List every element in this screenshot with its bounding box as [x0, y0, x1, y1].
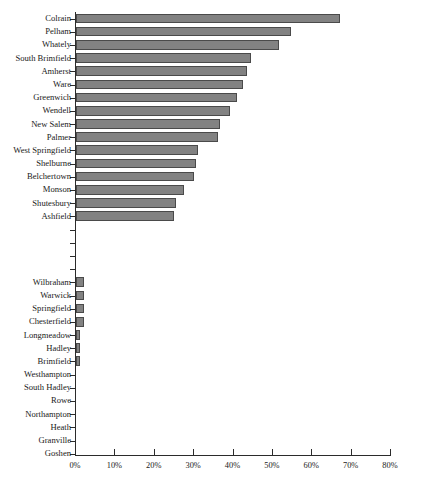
category-label: Heath — [50, 421, 71, 434]
x-axis-tick — [351, 449, 352, 455]
bar — [76, 317, 84, 327]
chart-row: Wendell — [0, 104, 421, 117]
bar — [76, 185, 184, 195]
chart-row: Northampton — [0, 408, 421, 421]
x-axis-tick — [154, 449, 155, 455]
chart-row: Palmer — [0, 131, 421, 144]
category-label: Ware — [53, 78, 71, 91]
bar — [76, 343, 80, 353]
chart-row: South Hadley — [0, 381, 421, 394]
chart-row: West Springfield — [0, 144, 421, 157]
chart-row: New Salem — [0, 118, 421, 131]
bar — [76, 291, 84, 301]
chart-row: Brimfield — [0, 355, 421, 368]
chart-row: Goshen — [0, 447, 421, 460]
bar — [76, 330, 80, 340]
bar — [76, 14, 340, 24]
chart-row: Belchertown — [0, 170, 421, 183]
category-label: Shelburne — [36, 157, 71, 170]
bar — [76, 277, 84, 287]
chart-row: Springfield — [0, 302, 421, 315]
category-label: Chesterfield — [29, 315, 71, 328]
bar — [76, 304, 84, 314]
category-label: Belchertown — [27, 170, 71, 183]
category-label: Colrain — [45, 12, 71, 25]
bar — [76, 198, 176, 208]
bar — [76, 132, 218, 142]
category-label: Monson — [43, 183, 71, 196]
chart-row: Westhampton — [0, 368, 421, 381]
chart-row: Chesterfield — [0, 315, 421, 328]
chart-row — [0, 263, 421, 276]
chart-row: Shelburne — [0, 157, 421, 170]
category-label: Palmer — [47, 131, 71, 144]
bar — [76, 93, 237, 103]
bar — [76, 119, 220, 129]
bar — [76, 172, 194, 182]
category-label: Goshen — [45, 447, 71, 460]
category-label: Shutesbury — [32, 197, 71, 210]
chart-row: Greenwich — [0, 91, 421, 104]
bar — [76, 53, 251, 63]
bar — [76, 40, 279, 50]
x-axis-tick — [233, 449, 234, 455]
category-label: Rowe — [51, 394, 71, 407]
category-label: South Brimfield — [15, 52, 71, 65]
category-label: Westhampton — [24, 368, 71, 381]
category-tick — [70, 230, 75, 231]
category-label: Pelham — [45, 25, 71, 38]
chart-row — [0, 249, 421, 262]
x-axis-tick — [311, 449, 312, 455]
bar — [76, 159, 196, 169]
chart-row: Granville — [0, 434, 421, 447]
chart-row: Warwick — [0, 289, 421, 302]
category-tick — [70, 269, 75, 270]
chart-row: South Brimfield — [0, 52, 421, 65]
bar-chart: ColrainPelhamWhatelySouth BrimfieldAmher… — [0, 0, 421, 497]
bar — [76, 211, 174, 221]
chart-row: Whately — [0, 38, 421, 51]
bar — [76, 80, 243, 90]
bar — [76, 145, 198, 155]
chart-row: Monson — [0, 183, 421, 196]
category-label: Greenwich — [33, 91, 71, 104]
category-label: Northampton — [25, 408, 71, 421]
bar — [76, 66, 247, 76]
chart-row — [0, 223, 421, 236]
category-rows: ColrainPelhamWhatelySouth BrimfieldAmher… — [0, 12, 421, 460]
chart-row: Amherst — [0, 65, 421, 78]
x-axis-tick — [193, 449, 194, 455]
chart-row: Wilbraham — [0, 276, 421, 289]
x-axis-tick — [390, 449, 391, 455]
x-axis-tick — [272, 449, 273, 455]
chart-row: Longmeadow — [0, 329, 421, 342]
bar — [76, 27, 291, 37]
bar — [76, 106, 230, 116]
category-label: Hadley — [46, 342, 71, 355]
category-tick — [70, 256, 75, 257]
x-axis-tick — [75, 449, 76, 455]
category-label: Longmeadow — [24, 329, 71, 342]
category-label: West Springfield — [13, 144, 71, 157]
chart-row: Hadley — [0, 342, 421, 355]
chart-row: Rowe — [0, 394, 421, 407]
category-label: Brimfield — [38, 355, 71, 368]
chart-row: Ashfield — [0, 210, 421, 223]
chart-row: Colrain — [0, 12, 421, 25]
category-label: Wendell — [43, 104, 71, 117]
category-label: South Hadley — [24, 381, 71, 394]
category-label: Warwick — [40, 289, 71, 302]
category-label: New Salem — [31, 118, 71, 131]
category-label: Wilbraham — [33, 276, 71, 289]
x-axis-tick-label: 80% — [360, 461, 420, 470]
category-tick — [70, 243, 75, 244]
chart-row: Ware — [0, 78, 421, 91]
category-label: Granville — [39, 434, 71, 447]
chart-row: Heath — [0, 421, 421, 434]
chart-row: Shutesbury — [0, 197, 421, 210]
chart-row: Pelham — [0, 25, 421, 38]
x-axis-tick — [114, 449, 115, 455]
chart-row — [0, 236, 421, 249]
category-label: Amherst — [41, 65, 71, 78]
category-label: Whately — [42, 38, 71, 51]
